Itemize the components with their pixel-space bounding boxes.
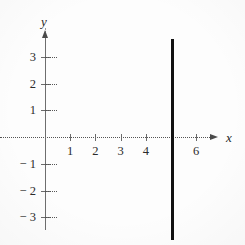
y-tick-label-neg3: − 3 <box>12 211 36 224</box>
y-tick-label-3: 3 <box>21 51 36 64</box>
x-tick-label-3: 3 <box>117 145 123 158</box>
x-tick-label-1: 1 <box>67 145 73 158</box>
scan-tint-overlay <box>0 0 245 245</box>
y-tick-3-dotted <box>45 57 57 58</box>
y-tick-neg1-dotted <box>45 164 57 165</box>
x-tick-label-4: 4 <box>143 145 149 158</box>
plot-line-x-equals-5 <box>171 39 174 240</box>
x-axis-label: x <box>226 131 232 144</box>
y-tick-label-1: 1 <box>21 104 36 117</box>
y-tick-label-neg2: − 2 <box>12 184 36 197</box>
y-axis-label: y <box>41 15 47 28</box>
coordinate-plane-figure: x y 1 2 3 4 6 3 2 1 − 1 − 2 − 3 <box>0 0 245 245</box>
x-axis-line <box>0 137 214 138</box>
y-tick-label-2: 2 <box>21 77 36 90</box>
x-tick-4 <box>146 134 147 141</box>
x-tick-label-2: 2 <box>92 145 98 158</box>
x-tick-label-6: 6 <box>193 145 199 158</box>
y-axis-arrowhead-icon <box>42 30 48 38</box>
x-tick-3 <box>121 134 122 141</box>
y-axis-line <box>45 36 46 230</box>
y-tick-neg2-dotted <box>45 191 57 192</box>
x-tick-2 <box>95 134 96 141</box>
y-tick-label-neg1: − 1 <box>12 158 36 171</box>
y-tick-neg3-dotted <box>45 217 57 218</box>
x-tick-1 <box>70 134 71 141</box>
x-tick-6 <box>196 134 197 141</box>
y-tick-1-dotted <box>45 110 57 111</box>
x-axis-arrowhead-icon <box>210 134 218 140</box>
y-tick-2-dotted <box>45 84 57 85</box>
